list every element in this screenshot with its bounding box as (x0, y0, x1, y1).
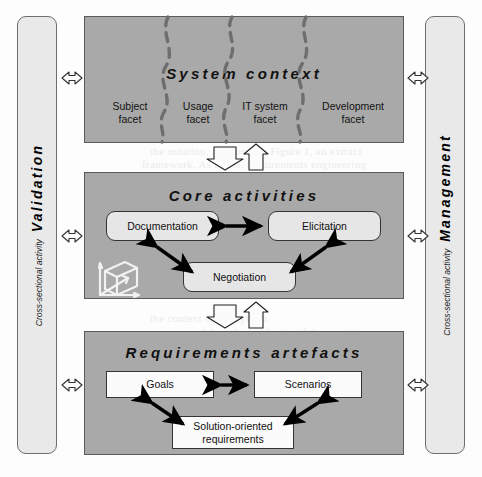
node-solution-oriented-requirements[interactable]: Solution-oriented requirements (172, 416, 294, 449)
block-arrow-up-icon (244, 144, 268, 170)
facet-development-line1: Development (312, 100, 394, 113)
node-goals[interactable]: Goals (106, 371, 214, 398)
block-arrow-down-icon (207, 305, 243, 328)
background-bleed-text: the notation, as shown in Figure 1, an e… (150, 145, 362, 157)
node-documentation-label: Documentation (127, 220, 198, 233)
facet-it-system-line2: facet (232, 113, 298, 126)
panel-title-requirements-artefacts: Requirements artefacts (85, 344, 403, 361)
node-solution-label-line1: Solution-oriented (193, 420, 272, 433)
panel-title-core-activities: Core activities (85, 187, 403, 204)
connector-context-to-activities (207, 144, 268, 170)
panel-title-system-context: System context (85, 65, 403, 82)
facet-it-system-line1: IT system (232, 100, 298, 113)
connector-activities-to-artefacts (207, 302, 268, 328)
node-elicitation[interactable]: Elicitation (268, 211, 381, 241)
facet-usage: Usage facet (168, 100, 228, 125)
validation-big-label: Validation (29, 144, 45, 232)
validation-label-group: Cross-sectional activity Validation (29, 144, 45, 326)
block-arrow-down-icon (207, 147, 243, 170)
node-scenarios[interactable]: Scenarios (254, 371, 362, 398)
block-arrow-up-icon (244, 302, 268, 328)
facet-subject-line1: Subject (96, 100, 164, 113)
facet-subject-line2: facet (96, 113, 164, 126)
background-bleed-text: the context of the system (150, 312, 267, 324)
validation-system-context-link-icon (62, 72, 82, 84)
node-negotiation[interactable]: Negotiation (183, 262, 296, 292)
management-small-label: Cross-sectional activity (442, 249, 452, 336)
node-negotiation-label: Negotiation (213, 271, 266, 284)
sidebar-item-management[interactable]: Cross-sectional activity Management (425, 16, 465, 454)
validation-core-activities-link-icon (62, 230, 82, 242)
background-bleed-text: framework. As a rule, requirements engin… (142, 158, 366, 170)
validation-small-label: Cross-sectional activity (34, 239, 44, 326)
facet-usage-line2: facet (168, 113, 228, 126)
sidebar-item-validation[interactable]: Cross-sectional activity Validation (17, 16, 57, 454)
facet-usage-line1: Usage (168, 100, 228, 113)
node-documentation[interactable]: Documentation (106, 211, 219, 241)
facet-subject: Subject facet (96, 100, 164, 125)
validation-artefacts-link-icon (62, 379, 82, 391)
diagram-canvas: 3 For the notation, as shown in Figure 1… (0, 0, 482, 477)
node-goals-label: Goals (146, 378, 173, 391)
facet-development-line2: facet (312, 113, 394, 126)
node-elicitation-label: Elicitation (302, 220, 347, 233)
facet-development: Development facet (312, 100, 394, 125)
management-label-group: Cross-sectional activity Management (437, 134, 453, 336)
management-big-label: Management (437, 134, 453, 242)
facet-it-system: IT system facet (232, 100, 298, 125)
node-scenarios-label: Scenarios (285, 378, 332, 391)
node-solution-label-line2: requirements (202, 433, 263, 446)
